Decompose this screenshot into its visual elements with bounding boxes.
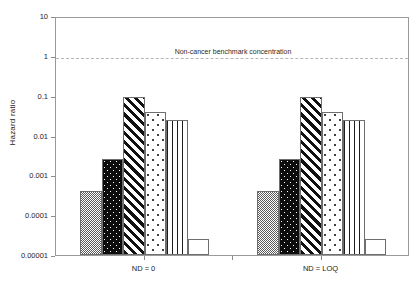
bar xyxy=(257,191,279,255)
bar xyxy=(166,120,188,255)
y-tick-label: 0.0001 xyxy=(25,211,48,220)
y-tick-label: 0.01 xyxy=(33,132,48,141)
bar xyxy=(145,112,167,255)
bar xyxy=(279,159,301,255)
y-tick-label: 0.00001 xyxy=(21,251,48,260)
y-tick-label: 0.1 xyxy=(38,92,48,101)
y-tick-mark xyxy=(51,256,55,257)
x-tick-mark-divider xyxy=(232,256,233,260)
y-tick-label: 10 xyxy=(40,12,48,21)
x-group-label: ND = 0 xyxy=(132,264,156,273)
y-tick-label: 0.001 xyxy=(29,171,48,180)
bar xyxy=(322,112,344,255)
bar xyxy=(188,239,210,255)
x-tick-mark xyxy=(321,256,322,260)
y-tick-label: 1 xyxy=(44,52,48,61)
y-axis-title: Hazard ratio xyxy=(8,63,17,183)
benchmark-label: Non-cancer benchmark concentration xyxy=(175,48,292,58)
bar xyxy=(365,239,387,255)
benchmark-line xyxy=(56,58,408,59)
bar xyxy=(80,191,102,255)
x-tick-mark xyxy=(144,256,145,260)
chart-figure: Hazard ratio 1010.10.010.0010.00010.0000… xyxy=(0,0,420,289)
plot-area: Non-cancer benchmark concentration xyxy=(55,17,409,256)
bar xyxy=(102,159,124,255)
bar xyxy=(343,120,365,255)
bar xyxy=(123,97,145,255)
x-group-label: ND = LOQ xyxy=(303,264,338,273)
bar xyxy=(300,97,322,255)
